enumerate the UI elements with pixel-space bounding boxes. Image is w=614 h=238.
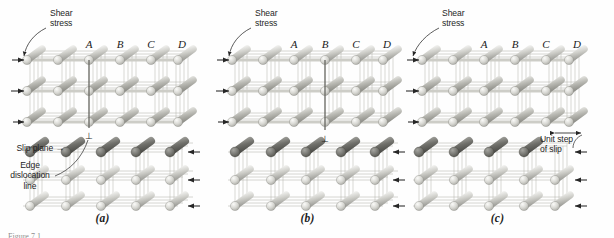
column-label-c-1: B — [508, 38, 522, 50]
annotation-shear-stress-a: Shear stress — [50, 8, 72, 29]
lattice-diagram-c — [409, 0, 614, 238]
shear-arrows-right-b — [393, 152, 405, 206]
column-label-b-1: B — [318, 38, 332, 50]
column-label-b-0: A — [287, 38, 301, 50]
column-label-a-1: B — [113, 38, 127, 50]
figure-edge-dislocation-motion: ⊥ — [0, 0, 614, 238]
shear-arrows-right-c — [575, 152, 587, 206]
column-label-a-0: A — [82, 38, 96, 50]
dislocation-symbol-b: ⊥ — [321, 134, 329, 144]
column-label-c-3: D — [570, 38, 584, 50]
column-label-b-3: D — [380, 38, 394, 50]
annotation-shear-stress-c: Shear stress — [442, 8, 464, 29]
annotation-edge-dislocation-line-a: Edge dislocation line — [2, 160, 58, 191]
dislocation-symbol-a: ⊥ — [85, 131, 93, 141]
figure-caption: Figure 7.1 — [8, 232, 608, 238]
shear-arrows-right-a — [188, 152, 200, 206]
panel-label-b: (b) — [205, 212, 410, 224]
column-label-b-2: C — [349, 38, 363, 50]
lattice-diagram-a: ⊥ — [0, 0, 205, 238]
shear-arrows-left-b — [216, 60, 229, 122]
lattice-diagram-b: ⊥ — [205, 0, 410, 238]
annotation-unit-step-of-slip-c: Unit step of slip — [540, 134, 612, 155]
column-label-a-3: D — [175, 38, 189, 50]
panel-label-a: (a) — [0, 212, 205, 224]
panel-label-c: (c) — [395, 212, 600, 224]
panel-c: A B C D Shear stress Unit step of slip (… — [409, 0, 614, 238]
annotation-slip-plane-a: Slip plane → — [0, 143, 64, 153]
annotation-shear-stress-b: Shear stress — [255, 8, 277, 29]
panel-b: ⊥ A B C D Shear stress (b) — [205, 0, 410, 238]
shear-arrows-left-a — [11, 60, 24, 122]
column-label-a-2: C — [144, 38, 158, 50]
column-label-c-0: A — [477, 38, 491, 50]
column-label-c-2: C — [539, 38, 553, 50]
panel-a: ⊥ — [0, 0, 205, 238]
